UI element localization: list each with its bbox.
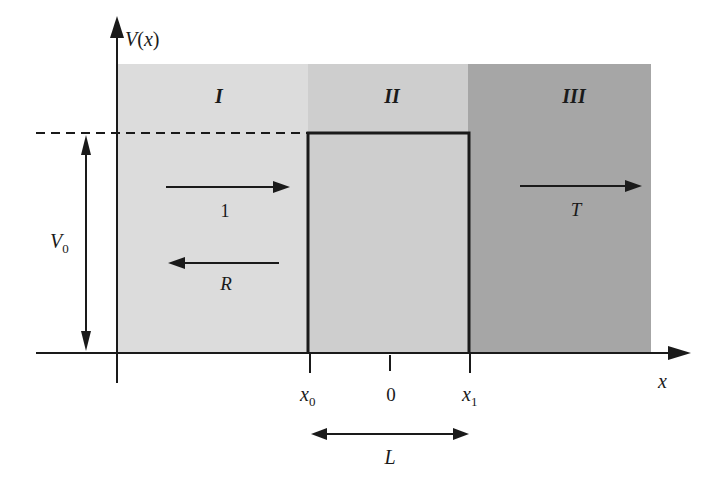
transmitted-label: T <box>571 199 583 220</box>
width-arrow-left-icon <box>311 428 327 440</box>
tick-label-x0: x0 <box>299 383 315 409</box>
width-arrow-right-icon <box>453 428 469 440</box>
region-label-III: III <box>561 85 587 107</box>
x-axis-arrow-icon <box>668 346 691 360</box>
v0-arrow-up-icon <box>81 135 91 155</box>
tick-label-x1: x1 <box>461 383 477 409</box>
y-axis-label: V(x) <box>125 28 159 51</box>
region-I <box>117 64 308 353</box>
barrier-height-label: V0 <box>50 230 69 256</box>
y-axis-arrow-icon <box>110 16 124 38</box>
tick-label-zero: 0 <box>386 384 396 405</box>
region-III <box>468 64 651 353</box>
barrier-diagram: V(x) I II III 1 R T V0 x x0 0 x1 L <box>0 0 723 482</box>
reflected-label: R <box>219 273 232 294</box>
region-II <box>308 64 468 353</box>
x-axis-label: x <box>657 370 667 392</box>
region-label-II: II <box>383 85 401 107</box>
width-label: L <box>383 446 395 468</box>
incident-label: 1 <box>221 201 230 221</box>
v0-arrow-down-icon <box>81 331 91 351</box>
region-label-I: I <box>214 85 224 107</box>
